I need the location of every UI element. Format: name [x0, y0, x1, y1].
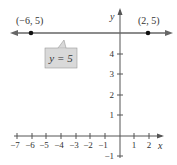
- equation-callout: y = 5: [45, 40, 77, 68]
- svg-text:1: 1: [110, 110, 115, 120]
- svg-text:4: 4: [110, 49, 115, 59]
- line-left-arrow-icon: [10, 30, 18, 36]
- svg-text:−1: −1: [104, 151, 114, 161]
- svg-text:1: 1: [132, 140, 137, 150]
- line-right-arrow-icon: [165, 30, 173, 36]
- svg-text:−5: −5: [39, 140, 49, 150]
- svg-text:−7: −7: [10, 140, 20, 150]
- svg-text:2: 2: [147, 140, 152, 150]
- x-tick-labels: −7 −6 −5 −4 −3 −2 −1 1 2: [10, 140, 151, 150]
- callout-label: y = 5: [48, 52, 73, 64]
- x-axis-arrow-icon: [157, 134, 164, 139]
- svg-text:−3: −3: [69, 140, 79, 150]
- svg-text:−6: −6: [25, 140, 35, 150]
- point-label-right: (2, 5): [138, 15, 160, 27]
- point-neg6-5: [29, 31, 34, 36]
- svg-text:−1: −1: [98, 140, 108, 150]
- y-axis-label: y: [109, 11, 115, 22]
- svg-text:2: 2: [110, 90, 115, 100]
- svg-text:−4: −4: [54, 140, 64, 150]
- point-label-left: (−6, 5): [16, 15, 43, 27]
- svg-text:−2: −2: [83, 140, 93, 150]
- y-axis-arrow-icon: [118, 8, 123, 15]
- x-axis-label: x: [157, 140, 163, 151]
- point-2-5: [146, 31, 151, 36]
- svg-text:3: 3: [110, 69, 115, 79]
- chart: y x −7 −6 −5 −4 −3 −2 −1 1 2 4 3 2 1: [0, 0, 177, 165]
